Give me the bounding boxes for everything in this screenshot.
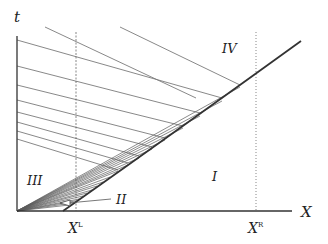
xl-label-base: X (68, 220, 78, 236)
region-i-label: I (212, 170, 217, 183)
xl-label: XL (68, 221, 83, 235)
characteristics-diagram (0, 0, 328, 244)
region-iv-label: IV (222, 42, 237, 55)
t-axis-label: t (14, 10, 20, 25)
xl-label-sup: L (78, 221, 83, 229)
reflected-characteristics (17, 27, 240, 170)
region-ii-label: II (116, 193, 126, 206)
xr-label: XR (248, 221, 263, 235)
xr-label-sup: R (258, 221, 263, 229)
shock-curve (63, 41, 301, 211)
region-iii-label: III (27, 174, 42, 187)
x-axis-label: X (301, 205, 312, 220)
xr-label-base: X (248, 220, 258, 236)
